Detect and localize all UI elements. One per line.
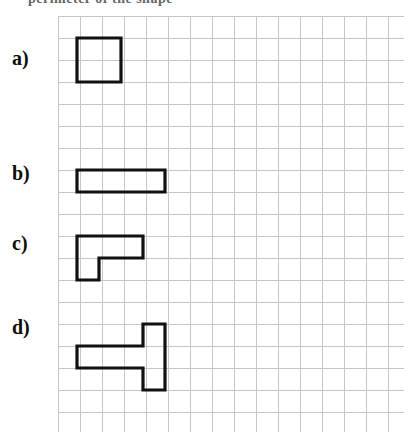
item-label-c: c) <box>12 233 28 253</box>
item-label-d: d) <box>12 317 30 337</box>
grid-paper <box>58 16 404 432</box>
worksheet-page: perimeter of the shape a) b) c) d) <box>0 0 410 439</box>
item-label-a: a) <box>12 48 29 68</box>
item-label-b: b) <box>12 163 30 183</box>
page-title-fragment: perimeter of the shape <box>0 0 410 9</box>
